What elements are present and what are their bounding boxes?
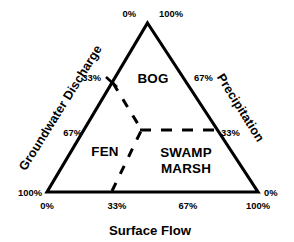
tick-label-right-67: 67%	[194, 72, 213, 83]
axis-title-surface-flow: Surface Flow	[109, 223, 192, 238]
corner-label-bottom-left: 100%	[18, 187, 43, 198]
zone-label-bog: BOG	[137, 71, 168, 86]
ternary-diagram-figure: 0% 100% 100% 0% 33% 67% 67% 33% 0% 33% 6…	[0, 0, 294, 242]
zone-label-marsh: MARSH	[161, 161, 211, 176]
corner-label-bottom-right: 0%	[264, 187, 278, 198]
apex-label-left: 0%	[122, 8, 136, 19]
apex-label-right: 100%	[159, 8, 184, 19]
tick-label-right-33: 33%	[221, 127, 240, 138]
tick-label-bottom-33: 33%	[108, 200, 127, 211]
triangle-outline	[47, 23, 258, 192]
divider-bog-fen	[113, 83, 141, 129]
tick-label-bottom-0: 0%	[40, 200, 54, 211]
zone-label-fen: FEN	[91, 144, 118, 159]
zone-label-swamp: SWAMP	[160, 145, 212, 160]
diagram-canvas: 0% 100% 100% 0% 33% 67% 67% 33% 0% 33% 6…	[0, 0, 294, 242]
tick-label-left-67: 67%	[63, 127, 82, 138]
tick-label-bottom-67: 67%	[179, 200, 198, 211]
divider-fen-swamp	[112, 131, 141, 191]
tick-label-bottom-100: 100%	[246, 200, 271, 211]
